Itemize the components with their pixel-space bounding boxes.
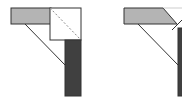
- right-vertical-bar: [178, 28, 182, 96]
- right-figure: [124, 8, 182, 96]
- left-horizontal-bar: [11, 8, 51, 24]
- right-diagonal-brace: [138, 24, 178, 65]
- right-horizontal-bar: [124, 8, 177, 24]
- diagram-canvas: [0, 0, 182, 102]
- left-figure: [11, 8, 81, 96]
- left-vertical-bar: [65, 40, 81, 96]
